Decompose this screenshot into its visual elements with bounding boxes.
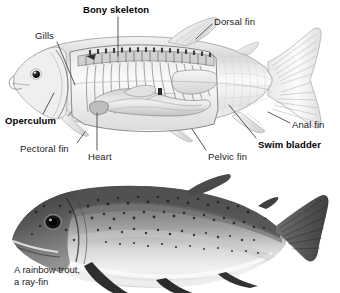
leader-line-pelvic-fin [192, 129, 206, 150]
trout-caudal-fin [276, 195, 329, 261]
dorsal-fin-label: Dorsal fin [214, 16, 255, 27]
pelvic-fin-label: Pelvic fin [208, 151, 247, 162]
gills-label: Gills [35, 30, 54, 41]
fish-head-shape [14, 47, 68, 119]
caudal-fin-shape [268, 28, 321, 128]
figure-page: Bony skeleton Dorsal fin Gills Operculum… [0, 0, 340, 293]
heart-label: Heart [88, 151, 112, 162]
pectoral-fin-label: Pectoral fin [20, 143, 69, 154]
cavity-marker-block [158, 88, 162, 95]
trout-adipose-fin [258, 197, 278, 209]
fish-eye-pupil [33, 71, 40, 78]
body-cavity-cutaway [68, 46, 220, 130]
anal-fin-label: Anal fin [292, 119, 325, 130]
bony-skeleton-label: Bony skeleton [83, 4, 149, 15]
photo-caption-line-2: a ray-fin [14, 276, 48, 288]
swim-bladder-label: Swim bladder [258, 139, 321, 150]
photo-caption-line-1: A rainbow trout, [14, 264, 80, 276]
dorsal-fin-shape [168, 17, 218, 46]
trout-dorsal-fin [186, 174, 231, 196]
leader-line-anal-fin [268, 112, 290, 123]
adipose-fin-shape [236, 42, 259, 55]
operculum-label: Operculum [5, 115, 56, 126]
fish-eye-highlight [34, 72, 36, 74]
